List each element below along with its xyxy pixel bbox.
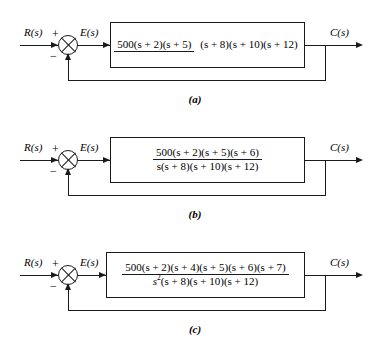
caption-a: (a) (0, 93, 390, 105)
block-diagram-c: R(s) + − E(s) 500(s + 2)(s + 4)(s + 5)(s… (0, 230, 390, 345)
summing-minus-sign-c: − (50, 280, 57, 292)
summing-plus-sign-c: + (52, 258, 59, 270)
output-arrow-b (356, 157, 363, 163)
numerator-a: 500(s + 2)(s + 5) (114, 38, 194, 52)
feedback-wire-bottom-b (68, 195, 326, 196)
summing-plus-sign-b: + (52, 143, 59, 155)
feedback-wire-right-c (325, 275, 326, 310)
input-arrow-b (51, 157, 58, 163)
input-label-a: R(s) (24, 27, 42, 38)
output-arrow-c (356, 272, 363, 278)
plant-block-c: 500(s + 2)(s + 4)(s + 5)(s + 6)(s + 7) s… (106, 252, 305, 298)
input-label-c: R(s) (24, 257, 42, 268)
plant-block-a: 500(s + 2)(s + 5) (s + 8)(s + 10)(s + 12… (110, 22, 305, 68)
summing-junction-a (58, 35, 78, 55)
output-wire-c (305, 275, 360, 276)
feedback-arrow-b (65, 168, 71, 175)
summing-minus-sign-a: − (50, 50, 57, 62)
feedback-wire-right-a (325, 45, 326, 80)
caption-b: (b) (0, 208, 390, 220)
input-arrow-c (51, 272, 58, 278)
plant-block-b: 500(s + 2)(s + 5)(s + 6) s(s + 8)(s + 10… (110, 137, 305, 183)
output-wire-b (305, 160, 360, 161)
caption-c: (c) (0, 323, 390, 335)
denominator-rest-c: (s + 8)(s + 10)(s + 12) (161, 275, 258, 287)
block-diagram-figure: R(s) + − E(s) 500(s + 2)(s + 5) (s + 8)(… (0, 0, 390, 345)
denominator-c: s2(s + 8)(s + 10)(s + 12) (150, 274, 261, 287)
output-wire-a (305, 45, 360, 46)
output-label-c: C(s) (330, 257, 349, 268)
error-label-c: E(s) (80, 257, 98, 268)
error-label-a: E(s) (80, 27, 98, 38)
summing-junction-c (58, 265, 78, 285)
error-label-b: E(s) (80, 142, 98, 153)
summing-junction-b (58, 150, 78, 170)
feedback-arrow-c (65, 283, 71, 290)
block-diagram-a: R(s) + − E(s) 500(s + 2)(s + 5) (s + 8)(… (0, 0, 390, 115)
input-arrow-a (51, 42, 58, 48)
summing-plus-sign-a: + (52, 28, 59, 40)
feedback-arrow-a (65, 53, 71, 60)
error-arrow-a (103, 42, 110, 48)
summing-minus-sign-b: − (50, 165, 57, 177)
block-diagram-b: R(s) + − E(s) 500(s + 2)(s + 5)(s + 6) s… (0, 115, 390, 230)
feedback-wire-bottom-c (68, 310, 326, 311)
feedback-wire-right-b (325, 160, 326, 195)
denominator-b: s(s + 8)(s + 10)(s + 12) (154, 159, 262, 172)
error-arrow-b (103, 157, 110, 163)
input-label-b: R(s) (24, 142, 42, 153)
output-label-a: C(s) (330, 27, 349, 38)
transfer-function-c: 500(s + 2)(s + 4)(s + 5)(s + 6)(s + 7) s… (107, 261, 304, 289)
output-arrow-a (356, 42, 363, 48)
output-label-b: C(s) (330, 142, 349, 153)
feedback-wire-bottom-a (68, 80, 326, 81)
error-arrow-c (99, 272, 106, 278)
denominator-a: (s + 8)(s + 10)(s + 12) (197, 37, 300, 50)
transfer-function-a: 500(s + 2)(s + 5) (s + 8)(s + 10)(s + 12… (114, 38, 300, 52)
transfer-function-b: 500(s + 2)(s + 5)(s + 6) s(s + 8)(s + 10… (111, 146, 304, 174)
